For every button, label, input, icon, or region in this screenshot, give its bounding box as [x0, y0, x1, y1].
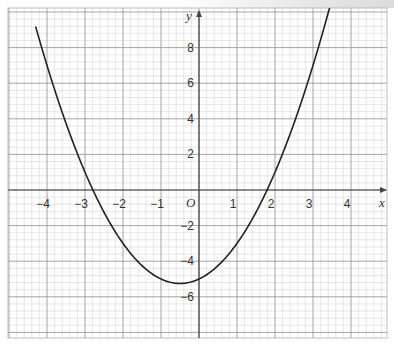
- tick-labels: −4−3−2−112348642−2−4−6Oxy: [36, 8, 385, 304]
- parabola-curve: [36, 8, 330, 283]
- x-tick-label: 3: [306, 197, 313, 211]
- graph: −4−3−2−112348642−2−4−6Oxy: [0, 0, 394, 349]
- origin-label: O: [186, 195, 196, 210]
- y-tick-label: −6: [180, 290, 194, 304]
- x-tick-label: −4: [36, 197, 50, 211]
- y-tick-label: −2: [180, 219, 194, 233]
- x-tick-label: 1: [230, 197, 237, 211]
- y-tick-label: −4: [180, 254, 194, 268]
- y-tick-label: 8: [187, 41, 194, 55]
- major-grid: [8, 8, 387, 338]
- axes: [8, 10, 387, 338]
- x-tick-label: −1: [150, 197, 164, 211]
- x-axis-label: x: [378, 195, 385, 210]
- y-axis-label: y: [184, 8, 192, 23]
- x-tick-label: −2: [112, 197, 126, 211]
- x-tick-label: 2: [268, 197, 275, 211]
- y-tick-label: 6: [187, 76, 194, 90]
- y-tick-label: 2: [187, 147, 194, 161]
- x-tick-label: 4: [344, 197, 351, 211]
- minor-grid: [8, 8, 387, 338]
- y-tick-label: 4: [187, 112, 194, 126]
- x-tick-label: −3: [74, 197, 88, 211]
- grid-border: [8, 8, 387, 338]
